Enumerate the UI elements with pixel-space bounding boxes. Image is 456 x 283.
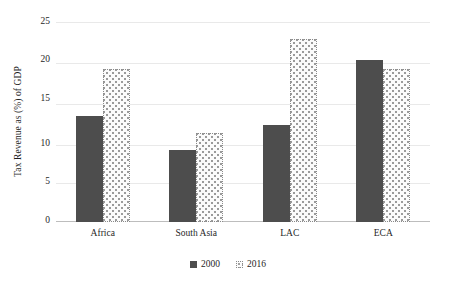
solid-dark-square-icon (190, 261, 197, 268)
bar-group-africa (63, 18, 143, 222)
bar-group-south-asia (156, 18, 236, 222)
bar-africa-2016 (103, 69, 130, 222)
bar-groups (56, 18, 430, 222)
y-tick-label-0: 0 (28, 216, 50, 226)
legend-item-2000: 2000 (190, 259, 220, 269)
bar-south-asia-2016 (196, 133, 223, 222)
dotted-light-square-icon (236, 261, 243, 268)
x-tick-label-africa: Africa (63, 228, 143, 238)
bar-chart: Tax Revenue as (%) of GDP 25 20 15 10 5 … (0, 0, 456, 283)
x-tick-label-lac: LAC (250, 228, 330, 238)
bar-south-asia-2000 (169, 150, 196, 222)
x-axis-labels: Africa South Asia LAC ECA (56, 228, 430, 238)
bar-eca-2000 (356, 60, 383, 222)
y-tick-label-15: 15 (28, 94, 50, 104)
bar-group-lac (250, 18, 330, 222)
bar-group-eca (343, 18, 423, 222)
y-tick-label-20: 20 (28, 55, 50, 65)
y-tick-label-5: 5 (28, 177, 50, 187)
y-axis-title: Tax Revenue as (%) of GDP (9, 11, 27, 232)
legend-item-2016: 2016 (236, 259, 266, 269)
legend-label-2000: 2000 (201, 259, 220, 269)
legend-label-2016: 2016 (247, 259, 266, 269)
x-tick-label-south-asia: South Asia (156, 228, 236, 238)
bar-africa-2000 (76, 116, 103, 222)
y-tick-label-25: 25 (28, 17, 50, 27)
chart-legend: 2000 2016 (0, 259, 456, 269)
bar-eca-2016 (383, 69, 410, 222)
bar-lac-2000 (263, 125, 290, 222)
y-tick-label-10: 10 (28, 139, 50, 149)
x-tick-label-eca: ECA (343, 228, 423, 238)
bar-lac-2016 (290, 39, 317, 222)
